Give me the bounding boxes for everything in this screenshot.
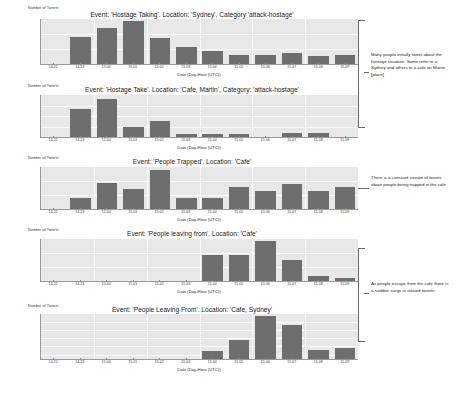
x-tick: 15-08 xyxy=(305,138,332,143)
x-tick: 14-22 xyxy=(40,138,67,143)
chart-panel-2: Number of Tweets Event: 'Hostage Take'. … xyxy=(0,84,469,160)
x-tick: 14-23 xyxy=(67,65,94,70)
bar-series-4 xyxy=(41,239,358,281)
bar-series-3 xyxy=(41,167,358,209)
plot-area-1: 0 50 100 xyxy=(40,19,358,65)
annotation-bracket-1 xyxy=(358,20,365,128)
x-tick: 15-04 xyxy=(199,282,226,287)
x-tick: 15-07 xyxy=(279,210,306,215)
chart-title-1: Event: 'Hostage Taking'. Location: 'Sydn… xyxy=(26,11,358,19)
x-tick: 15-03 xyxy=(173,65,200,70)
bar-series-5 xyxy=(41,314,358,359)
x-tick: 15-02 xyxy=(146,282,173,287)
x-tick: 14-22 xyxy=(40,282,67,287)
chart-5: Number of Tweets Event: 'People Leaving … xyxy=(26,300,358,380)
bar-series-2 xyxy=(41,95,358,137)
x-tick: 15-07 xyxy=(279,138,306,143)
x-tick: 15-01 xyxy=(120,282,147,287)
plot-area-4: 0 50 100 xyxy=(40,239,358,282)
chart-4: Number of Tweets Event: 'People leaving … xyxy=(26,228,358,304)
annotation-2: There is a constant stream of tweets abo… xyxy=(371,175,449,188)
x-tick: 15-06 xyxy=(252,282,279,287)
x-tick: 15-09 xyxy=(332,138,359,143)
x-tick-labels-4: 14-22 14-23 15-00 15-01 15-02 15-03 15-0… xyxy=(40,282,358,287)
annotation-stub-3 xyxy=(364,293,369,294)
x-tick: 15-06 xyxy=(252,65,279,70)
x-tick: 15-08 xyxy=(305,360,332,365)
annotation-3: As people escape from the cafe there is … xyxy=(371,281,449,294)
x-tick: 14-23 xyxy=(67,138,94,143)
x-tick: 15-04 xyxy=(199,210,226,215)
x-tick: 15-05 xyxy=(226,65,253,70)
chart-panel-5: Number of Tweets Event: 'People Leaving … xyxy=(0,300,469,380)
x-tick: 15-00 xyxy=(93,210,120,215)
x-tick-labels-3: 14-22 14-23 15-00 15-01 15-02 15-03 15-0… xyxy=(40,210,358,215)
plot-area-3: 0 10 20 xyxy=(40,167,358,210)
x-axis-label-5: Date (Day-Hour (UTC)) xyxy=(40,367,358,373)
bar-series-1 xyxy=(41,19,358,64)
chart-title-4: Event: 'People leaving from'. Location: … xyxy=(26,230,358,238)
x-tick: 15-01 xyxy=(120,65,147,70)
x-tick: 15-08 xyxy=(305,65,332,70)
x-tick: 15-05 xyxy=(226,210,253,215)
x-axis-label-3: Date (Day-Hour (UTC)) xyxy=(40,217,358,223)
x-tick: 15-08 xyxy=(305,282,332,287)
x-tick: 15-00 xyxy=(93,282,120,287)
annotation-1: Many people initially tweet about the ho… xyxy=(371,52,449,78)
x-tick-labels-2: 14-22 14-23 15-00 15-01 15-02 15-03 15-0… xyxy=(40,138,358,143)
chart-title-5: Event: 'People Leaving From'. Location: … xyxy=(26,306,358,314)
x-tick: 15-08 xyxy=(305,210,332,215)
x-tick: 15-06 xyxy=(252,360,279,365)
x-tick: 14-22 xyxy=(40,65,67,70)
x-tick-labels-5: 14-22 14-23 15-00 15-01 15-02 15-03 15-0… xyxy=(40,360,358,365)
chart-title-3: Event: 'People Trapped'. Location: 'Cafe… xyxy=(26,158,358,166)
x-tick: 14-22 xyxy=(40,360,67,365)
x-tick: 15-00 xyxy=(93,360,120,365)
x-tick: 15-03 xyxy=(173,138,200,143)
x-axis-label-4: Date (Day-Hour (UTC)) xyxy=(40,289,358,295)
x-tick: 15-02 xyxy=(146,360,173,365)
x-tick: 15-05 xyxy=(226,282,253,287)
x-tick: 15-06 xyxy=(252,210,279,215)
x-tick: 15-04 xyxy=(199,360,226,365)
x-tick: 14-22 xyxy=(40,210,67,215)
annotation-stub-1 xyxy=(364,72,369,73)
x-tick: 14-23 xyxy=(67,282,94,287)
x-tick: 15-03 xyxy=(173,210,200,215)
x-tick: 15-07 xyxy=(279,360,306,365)
x-tick: 14-23 xyxy=(67,360,94,365)
x-tick: 15-00 xyxy=(93,65,120,70)
x-tick: 15-03 xyxy=(173,360,200,365)
x-tick: 15-06 xyxy=(252,138,279,143)
x-tick: 15-01 xyxy=(120,360,147,365)
x-tick: 15-04 xyxy=(199,65,226,70)
x-tick: 15-01 xyxy=(120,210,147,215)
x-tick-labels-1: 14-22 14-23 15-00 15-01 15-02 15-03 15-0… xyxy=(40,65,358,70)
plot-area-2: 0 10 20 30 xyxy=(40,95,358,138)
chart-1: Number of Tweets Event: 'Hostage Taking'… xyxy=(26,6,358,86)
chart-3: Number of Tweets Event: 'People Trapped'… xyxy=(26,156,358,232)
x-tick: 15-09 xyxy=(332,210,359,215)
x-tick: 15-02 xyxy=(146,65,173,70)
x-tick: 15-07 xyxy=(279,65,306,70)
figure-canvas: Number of Tweets Event: 'Hostage Taking'… xyxy=(0,0,469,393)
annotation-stub-2 xyxy=(358,188,369,189)
x-tick: 15-09 xyxy=(332,360,359,365)
x-tick: 15-00 xyxy=(93,138,120,143)
chart-panel-3: Number of Tweets Event: 'People Trapped'… xyxy=(0,156,469,232)
annotation-bracket-3 xyxy=(358,248,365,342)
x-axis-label-1: Date (Day-Hour (UTC)) xyxy=(40,72,358,78)
x-tick: 15-01 xyxy=(120,138,147,143)
x-tick: 15-07 xyxy=(279,282,306,287)
x-tick: 15-05 xyxy=(226,360,253,365)
x-tick: 15-04 xyxy=(199,138,226,143)
x-tick: 15-09 xyxy=(332,65,359,70)
chart-title-2: Event: 'Hostage Take'. Location: 'Cafe, … xyxy=(26,86,358,94)
x-axis-label-2: Date (Day-Hour (UTC)) xyxy=(40,145,358,151)
x-tick: 15-03 xyxy=(173,282,200,287)
chart-2: Number of Tweets Event: 'Hostage Take'. … xyxy=(26,84,358,160)
plot-area-5: 0 10 20 30 40 50 xyxy=(40,314,358,360)
x-tick: 15-02 xyxy=(146,210,173,215)
x-tick: 15-05 xyxy=(226,138,253,143)
x-tick: 14-23 xyxy=(67,210,94,215)
